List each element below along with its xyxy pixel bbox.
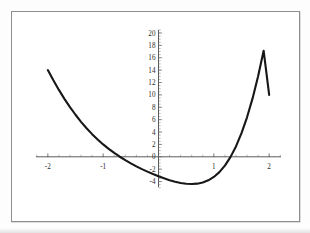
y-tick-label: 8 xyxy=(152,104,156,112)
y-tick-label: 20 xyxy=(148,30,156,38)
chart-svg: -2-112 -4-202468101214161820 xyxy=(12,12,301,223)
figure-root: -2-112 -4-202468101214161820 xyxy=(0,0,310,233)
y-tick-label: 12 xyxy=(148,79,156,87)
y-axis-tick-labels: -4-202468101214161820 xyxy=(148,30,156,187)
y-tick-label: 18 xyxy=(148,42,156,50)
y-tick-label: 16 xyxy=(148,54,156,62)
y-tick-label: 14 xyxy=(148,67,156,75)
scan-edge-shadow xyxy=(0,228,310,233)
y-tick-label: -4 xyxy=(150,178,156,186)
plot-frame-border: -2-112 -4-202468101214161820 xyxy=(11,11,300,222)
x-tick-label: 1 xyxy=(212,163,216,171)
y-tick-label: 2 xyxy=(152,141,156,149)
y-tick-label: 6 xyxy=(152,116,156,124)
x-tick-label: -1 xyxy=(100,163,106,171)
chart-plot-area: -2-112 -4-202468101214161820 xyxy=(12,12,299,221)
x-tick-label: 2 xyxy=(267,163,271,171)
y-tick-label: 4 xyxy=(152,129,156,137)
y-tick-label: 0 xyxy=(152,153,156,161)
y-tick-label: 10 xyxy=(148,91,156,99)
x-tick-label: -2 xyxy=(45,163,51,171)
